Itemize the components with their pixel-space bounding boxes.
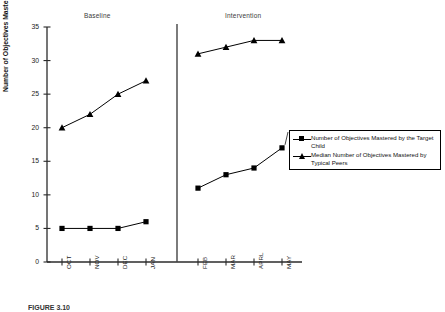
square-marker-icon xyxy=(293,135,311,143)
chart-legend: Number of Objectives Mastered by the Tar… xyxy=(289,130,441,170)
y-tick-label: 30 xyxy=(21,57,39,64)
y-tick-label: 20 xyxy=(21,124,39,131)
triangle-marker-icon xyxy=(293,152,311,160)
x-tick-label: MAR xyxy=(229,255,236,269)
x-tick-label: APRL xyxy=(257,252,264,269)
x-tick-label: DEC xyxy=(121,256,128,269)
x-tick-label: JAN xyxy=(149,257,156,269)
x-tick-label: FEB xyxy=(201,257,208,269)
figure-caption: FIGURE 3.10 xyxy=(28,304,70,312)
y-tick-label: 35 xyxy=(21,23,39,30)
data-point-square xyxy=(143,219,148,224)
series-line xyxy=(198,40,282,53)
x-tick-label: OCT xyxy=(65,256,72,269)
data-point-square xyxy=(195,186,200,191)
chart-figure: Baseline Intervention Number of Objectiv… xyxy=(0,0,445,312)
data-point-square xyxy=(251,165,256,170)
legend-label-target-child: Number of Objectives Mastered by the Tar… xyxy=(311,134,436,149)
legend-leader-line xyxy=(285,132,288,145)
legend-entry-typical-peers: Median Number of Objectives Mastered by … xyxy=(293,151,436,166)
data-point-triangle xyxy=(87,111,94,117)
data-point-square xyxy=(279,145,284,150)
data-point-square xyxy=(87,226,92,231)
data-point-triangle xyxy=(115,91,122,97)
data-point-triangle xyxy=(59,124,66,130)
series-line xyxy=(198,148,282,188)
legend-label-typical-peers: Median Number of Objectives Mastered by … xyxy=(311,151,436,166)
y-tick-label: 15 xyxy=(21,157,39,164)
data-series-layer xyxy=(59,37,286,231)
y-tick-label: 0 xyxy=(21,258,39,265)
x-tick-label: NOV xyxy=(93,255,100,269)
legend-entry-target-child: Number of Objectives Mastered by the Tar… xyxy=(293,134,436,149)
data-point-square xyxy=(115,226,120,231)
y-tick-label: 10 xyxy=(21,191,39,198)
y-tick-label: 25 xyxy=(21,90,39,97)
data-point-square xyxy=(59,226,64,231)
y-tick-label: 5 xyxy=(21,224,39,231)
series-line xyxy=(62,222,146,229)
data-point-triangle xyxy=(143,77,150,83)
x-tick-label: MAY xyxy=(285,256,292,269)
series-line xyxy=(62,81,146,128)
data-point-square xyxy=(223,172,228,177)
